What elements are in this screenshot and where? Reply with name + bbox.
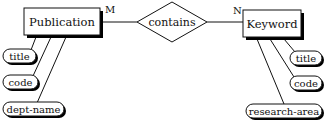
attribute-pub-title: title: [3, 49, 38, 65]
svg-text:code: code: [294, 78, 318, 89]
entity-keyword: Keyword: [243, 10, 304, 40]
attribute-kw-code: code: [290, 76, 324, 92]
line-pub-deptname: [37, 37, 66, 103]
cardinality-m: M: [105, 4, 115, 15]
attribute-kw-title: title: [290, 51, 324, 67]
attribute-pub-dept-name: dept-name: [3, 102, 66, 118]
line-kw-researcharea: [257, 39, 284, 104]
relationship-label: contains: [148, 16, 195, 29]
entity-keyword-label: Keyword: [246, 17, 298, 31]
svg-text:title: title: [296, 53, 316, 64]
entity-publication: Publication: [24, 8, 103, 38]
svg-text:title: title: [9, 51, 29, 62]
line-pub-title: [31, 37, 36, 50]
entity-publication-label: Publication: [29, 15, 95, 29]
attribute-kw-research-area: research-area: [246, 104, 324, 120]
svg-text:research-area: research-area: [249, 106, 320, 117]
er-diagram: Publication M contains N Keyword title c…: [0, 0, 325, 129]
attribute-pub-code: code: [3, 75, 40, 91]
line-kw-title: [284, 39, 295, 52]
relationship-contains: contains: [137, 2, 207, 42]
svg-text:code: code: [9, 77, 33, 88]
cardinality-n: N: [233, 5, 242, 16]
svg-text:dept-name: dept-name: [7, 104, 61, 115]
